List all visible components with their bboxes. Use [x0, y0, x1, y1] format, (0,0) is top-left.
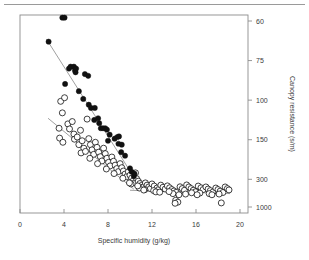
- y-tick-label-1000: 1000: [256, 204, 272, 211]
- data-point-filled: [76, 89, 81, 94]
- y-tick-label-60: 60: [256, 18, 264, 25]
- data-point-filled: [62, 15, 67, 20]
- data-point-open: [216, 191, 222, 197]
- data-point-filled: [107, 132, 112, 137]
- data-point-open: [78, 127, 84, 133]
- x-tick-label-20: 20: [236, 221, 244, 228]
- x-tick-label-12: 12: [148, 221, 156, 228]
- data-point-open: [157, 189, 163, 195]
- data-point-filled: [86, 73, 91, 78]
- data-point-open: [141, 187, 147, 193]
- trend-line-group: [46, 39, 230, 194]
- data-point-filled: [105, 138, 110, 143]
- data-point-open: [218, 200, 224, 206]
- y-tick-label-100: 100: [256, 97, 268, 104]
- y-tick-label-150: 150: [256, 136, 268, 143]
- x-axis-title: Specific humidity (g/kg): [98, 237, 170, 245]
- data-point-filled: [46, 39, 51, 44]
- data-point-open: [69, 119, 75, 125]
- series-open-circles: [56, 95, 232, 207]
- data-point-filled: [104, 127, 109, 132]
- y-tick-label-300: 300: [256, 176, 268, 183]
- data-point-open: [226, 187, 232, 193]
- data-point-open: [172, 200, 178, 206]
- data-point-open: [111, 171, 117, 177]
- data-point-filled: [63, 81, 68, 86]
- data-point-open: [166, 189, 172, 195]
- data-point-open: [194, 192, 200, 198]
- y-tick-label-75: 75: [256, 57, 264, 64]
- data-point-open: [62, 95, 68, 101]
- data-point-open: [84, 116, 90, 122]
- data-point-open: [67, 126, 73, 132]
- data-point-open: [82, 148, 88, 154]
- data-point-open: [120, 175, 126, 181]
- data-point-open: [176, 192, 182, 198]
- data-point-open: [103, 166, 109, 172]
- data-point-open: [56, 125, 62, 131]
- data-point-filled: [116, 134, 121, 139]
- data-point-filled: [119, 142, 124, 147]
- data-point-filled: [74, 66, 79, 71]
- x-tick-label-0: 0: [18, 221, 22, 228]
- data-point-open: [86, 136, 92, 142]
- data-point-open: [189, 190, 195, 196]
- data-point-open: [79, 138, 85, 144]
- data-point-filled: [92, 105, 97, 110]
- data-point-open: [60, 139, 66, 145]
- x-tick-label-16: 16: [192, 221, 200, 228]
- x-axis-tick-labels: 048121620: [18, 221, 244, 228]
- data-point-filled: [96, 116, 101, 121]
- data-point-open: [209, 192, 215, 198]
- data-point-open: [135, 183, 141, 189]
- y-axis-tick-group: [248, 21, 252, 207]
- x-axis-tick-group: [20, 209, 240, 213]
- data-point-filled: [122, 153, 127, 158]
- data-point-open: [87, 155, 93, 161]
- data-point-open: [59, 110, 65, 116]
- x-tick-label-4: 4: [62, 221, 66, 228]
- y-axis-tick-labels: 60751001503001000: [256, 18, 272, 211]
- scatter-plot-canvas: 048121620 60751001503001000 Specific hum…: [0, 0, 309, 260]
- y-axis-title: Canopy resistance (s/m): [288, 76, 296, 152]
- x-tick-label-8: 8: [106, 221, 110, 228]
- data-point-open: [126, 180, 132, 186]
- data-point-filled: [81, 96, 86, 101]
- data-point-open: [95, 161, 101, 167]
- figure-container: 048121620 60751001503001000 Specific hum…: [0, 0, 309, 260]
- data-point-filled: [132, 171, 137, 176]
- data-point-open: [183, 191, 189, 197]
- data-point-filled: [97, 121, 102, 126]
